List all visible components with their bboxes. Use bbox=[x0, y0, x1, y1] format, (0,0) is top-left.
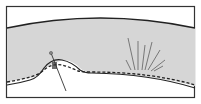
pin-shadow bbox=[52, 62, 57, 69]
pin-head bbox=[49, 51, 52, 54]
diagram-canvas bbox=[0, 0, 201, 104]
diagram-svg bbox=[0, 0, 201, 104]
